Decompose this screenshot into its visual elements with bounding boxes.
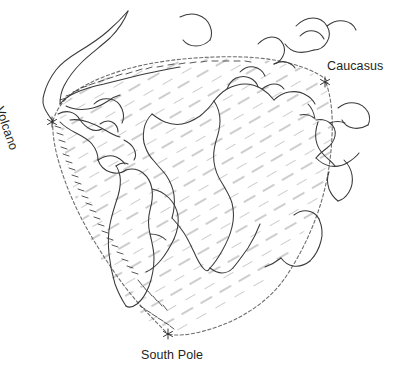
greenland-coastline	[180, 14, 212, 40]
hatched-gondwana-region	[0, 0, 406, 378]
label-caucasus: Caucasus	[327, 60, 383, 73]
volcano-marker	[48, 117, 57, 127]
map-illustration	[0, 0, 406, 378]
figure-canvas: Caucasus South Pole Volcano	[0, 0, 406, 378]
label-south-pole: South Pole	[141, 349, 203, 362]
